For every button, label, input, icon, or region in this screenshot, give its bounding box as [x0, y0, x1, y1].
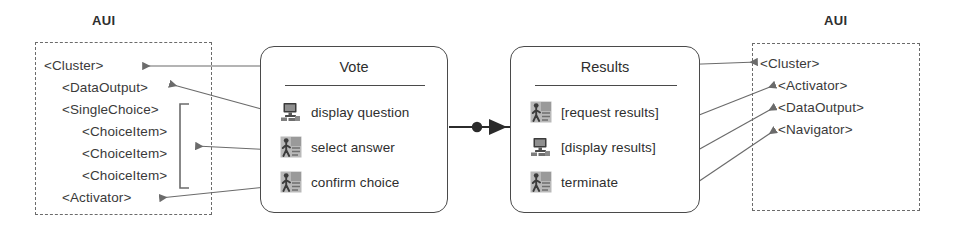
task-box-vote-divider [285, 85, 425, 86]
task-box-vote-title: Vote [261, 59, 447, 75]
sequence-connector [449, 119, 510, 135]
right-aui-item-dataoutput[interactable]: <DataOutput> [778, 100, 864, 115]
task-row-label: terminate [561, 175, 618, 190]
task-row-display-question[interactable]: display question [280, 101, 409, 123]
left-aui-item-choiceitem-3[interactable]: <ChoiceItem> [82, 168, 167, 183]
monitor-icon [280, 101, 302, 123]
task-row-confirm-choice[interactable]: confirm choice [280, 171, 399, 193]
user-interaction-icon [280, 171, 302, 193]
right-aui-item-activator[interactable]: <Activator> [778, 78, 847, 93]
user-interaction-icon [530, 101, 552, 123]
task-row-label: select answer [311, 140, 395, 155]
task-box-vote[interactable]: Vote display question select a [260, 46, 448, 213]
left-aui-item-dataoutput[interactable]: <DataOutput> [62, 80, 148, 95]
task-box-results-title: Results [511, 59, 699, 75]
task-row-label: [display results] [561, 140, 656, 155]
task-row-terminate[interactable]: terminate [530, 171, 618, 193]
left-aui-item-choiceitem-2[interactable]: <ChoiceItem> [82, 146, 167, 161]
left-aui-item-choiceitem-1[interactable]: <ChoiceItem> [82, 124, 167, 139]
task-box-results-divider [535, 85, 677, 86]
task-row-label: [request results] [561, 105, 659, 120]
task-row-label: display question [311, 105, 409, 120]
task-row-select-answer[interactable]: select answer [280, 136, 395, 158]
right-aui-item-cluster[interactable]: <Cluster> [760, 56, 819, 71]
task-box-results[interactable]: Results [request results] [dis [510, 46, 700, 213]
user-interaction-icon [280, 136, 302, 158]
task-row-display-results[interactable]: [display results] [530, 136, 656, 158]
user-interaction-icon [530, 171, 552, 193]
right-aui-label: AUI [824, 13, 848, 28]
left-aui-label: AUI [92, 13, 116, 28]
diagram-canvas: AUI <Cluster> <DataOutput> <SingleChoice… [0, 0, 959, 233]
right-aui-item-navigator[interactable]: <Navigator> [778, 122, 853, 137]
left-aui-item-activator[interactable]: <Activator> [62, 190, 131, 205]
task-row-label: confirm choice [311, 175, 399, 190]
task-row-request-results[interactable]: [request results] [530, 101, 659, 123]
left-aui-item-singlechoice[interactable]: <SingleChoice> [62, 102, 159, 117]
monitor-icon [530, 136, 552, 158]
left-aui-item-cluster[interactable]: <Cluster> [44, 58, 103, 73]
